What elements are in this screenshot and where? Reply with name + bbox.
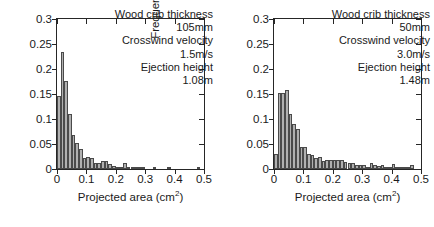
- y-axis-tick: [269, 144, 274, 145]
- x-axis-tick-top: [86, 19, 87, 24]
- y-axis-tick-label: 0.1: [36, 113, 52, 125]
- y-axis-tick-right: [416, 144, 421, 145]
- x-axis-tick-label: 0.1: [295, 173, 311, 185]
- x-axis-tick-label: 0.3: [137, 173, 153, 185]
- x-axis-tick-label: 0.4: [384, 173, 400, 185]
- annotation-right-line5: Ejection height: [310, 61, 430, 74]
- panel-right: Frequency 00.050.10.150.20.250.300.10.20…: [217, 0, 434, 227]
- x-axis-label-left: Projected area (cm2): [56, 190, 205, 204]
- y-axis-tick: [269, 119, 274, 120]
- x-axis-tick-label: 0: [271, 173, 277, 185]
- x-axis-tick-label: 0.5: [196, 173, 212, 185]
- y-axis-tick: [52, 144, 57, 145]
- x-axis-tick-label: 0.2: [325, 173, 341, 185]
- annotation-right-line4: 3.0m/s: [310, 48, 430, 61]
- x-axis-tick-label: 0: [54, 173, 60, 185]
- annotation-right: Wood crib thickness 50mm Crosswind veloc…: [310, 8, 430, 87]
- y-axis-tick-label: 0: [46, 163, 52, 175]
- y-axis-tick-right: [416, 94, 421, 95]
- y-axis-tick-label: 0.05: [30, 138, 52, 150]
- x-axis-tick-label: 0.2: [108, 173, 124, 185]
- histogram-bar: [410, 165, 414, 170]
- x-axis-tick-label: 0.4: [167, 173, 183, 185]
- x-axis-label-right-text: Projected area (cm: [295, 191, 392, 203]
- annotation-right-line1: Wood crib thickness: [310, 8, 430, 21]
- x-axis-label-right-tail: ): [396, 191, 400, 203]
- annotation-right-line3: Crosswind velocity: [310, 34, 430, 47]
- y-axis-tick-label: 0.15: [247, 88, 269, 100]
- y-axis-tick: [52, 94, 57, 95]
- panel-left: Frequency 00.050.10.150.20.250.300.10.20…: [0, 0, 217, 227]
- x-axis-label-left-text: Projected area (cm: [78, 191, 175, 203]
- x-axis-tick-label: 0.1: [78, 173, 94, 185]
- x-axis-tick-label: 0.5: [413, 173, 429, 185]
- x-axis-tick-label: 0.3: [354, 173, 370, 185]
- x-axis-tick-top: [303, 19, 304, 24]
- y-axis-tick-right: [416, 119, 421, 120]
- y-axis-tick-label: 0.2: [36, 63, 52, 75]
- x-axis-tick-top: [274, 19, 275, 24]
- x-axis-label-right: Projected area (cm2): [273, 190, 422, 204]
- y-axis-label-right: Frequency: [147, 0, 163, 88]
- y-axis-tick-right: [199, 144, 204, 145]
- y-axis-tick-label: 0: [263, 163, 269, 175]
- y-axis-tick-label: 0.3: [253, 13, 269, 25]
- y-axis-tick: [52, 44, 57, 45]
- y-axis-tick-label: 0.25: [247, 38, 269, 50]
- y-axis-tick-right: [199, 94, 204, 95]
- histogram-bar: [167, 167, 171, 169]
- annotation-right-line6: 1.48m: [310, 74, 430, 87]
- y-axis-tick-label: 0.2: [253, 63, 269, 75]
- y-axis-tick: [269, 94, 274, 95]
- two-panel-histogram-figure: Frequency 00.050.10.150.20.250.300.10.20…: [0, 0, 434, 227]
- x-axis-tick-top: [57, 19, 58, 24]
- y-axis-tick: [269, 44, 274, 45]
- y-axis-tick-label: 0.05: [247, 138, 269, 150]
- y-axis-tick-right: [199, 119, 204, 120]
- y-axis-tick: [52, 119, 57, 120]
- y-axis-tick-label: 0.3: [36, 13, 52, 25]
- y-axis-tick: [52, 69, 57, 70]
- histogram-bar: [153, 167, 157, 169]
- annotation-right-line2: 50mm: [310, 21, 430, 34]
- y-axis-tick-label: 0.25: [30, 38, 52, 50]
- x-axis-label-left-tail: ): [179, 191, 183, 203]
- y-axis-tick: [269, 69, 274, 70]
- y-axis-tick-label: 0.1: [253, 113, 269, 125]
- y-axis-tick-label: 0.15: [30, 88, 52, 100]
